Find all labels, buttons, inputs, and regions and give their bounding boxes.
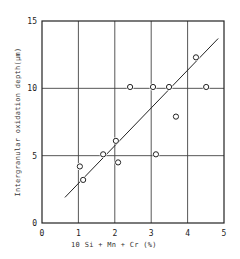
x-tick-label: 3 [149, 229, 154, 238]
x-tick-label: 4 [185, 229, 190, 238]
y-tick-labels: 051015 [27, 17, 37, 228]
y-axis-label: Intergranular oxidation depth(μm) [14, 48, 22, 197]
data-point [204, 84, 209, 89]
data-point [166, 84, 171, 89]
data-point [150, 84, 155, 89]
data-point [173, 114, 178, 119]
data-points [76, 54, 210, 184]
x-tick-label: 2 [112, 229, 117, 238]
y-tick-label: 5 [32, 152, 37, 161]
y-tick-label: 15 [27, 17, 37, 26]
data-point [127, 84, 132, 89]
data-point [153, 152, 158, 157]
x-axis-label: 10 Si + Mn + Cr (%) [71, 241, 157, 249]
data-point [77, 164, 82, 169]
x-tick-labels: 012345 [40, 229, 227, 238]
y-tick-label: 0 [32, 219, 37, 228]
data-point [113, 138, 118, 143]
fit-line [65, 39, 218, 198]
x-tick-label: 5 [222, 229, 227, 238]
chart: 051015 012345 10 Si + Mn + Cr (%) Interg… [0, 0, 240, 259]
data-point [81, 177, 86, 182]
data-point [193, 55, 198, 60]
x-tick-label: 1 [76, 229, 81, 238]
data-point [115, 160, 120, 165]
x-tick-label: 0 [40, 229, 45, 238]
data-point [101, 152, 106, 157]
y-tick-label: 10 [27, 84, 37, 93]
